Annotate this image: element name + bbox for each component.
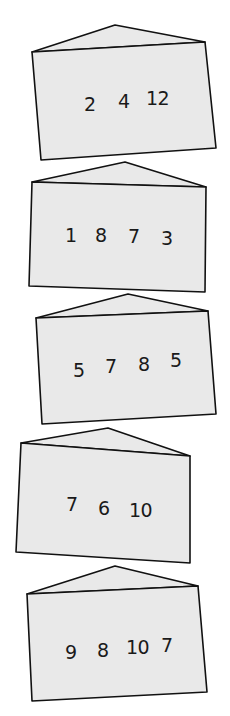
- envelope-number: 8: [97, 641, 109, 660]
- envelope-number: 7: [105, 357, 117, 376]
- envelope-number: 8: [95, 226, 107, 245]
- envelope-number: 7: [161, 636, 173, 655]
- envelope-5-shape: [27, 566, 207, 701]
- envelope-number: 10: [126, 638, 149, 657]
- envelope-number: 5: [73, 361, 85, 380]
- envelope-number: 9: [65, 643, 77, 662]
- envelope-number: 7: [66, 495, 78, 514]
- envelope-number: 10: [129, 501, 152, 520]
- envelope-number: 3: [161, 229, 173, 248]
- envelope-3-shape: [36, 294, 216, 424]
- envelope-number: 7: [128, 227, 140, 246]
- envelope-worksheet: 2 4 12 1 8 7 3 5 7 8 5 7 6 10 9 8 10 7: [0, 0, 230, 716]
- envelope-number: 4: [118, 92, 130, 111]
- envelope-body: [29, 182, 206, 292]
- envelope-body: [27, 586, 207, 701]
- envelope-number: 12: [146, 89, 169, 108]
- envelope-number: 6: [98, 499, 110, 518]
- envelope-number: 2: [84, 95, 96, 114]
- envelope-2-shape: [29, 162, 206, 292]
- envelope-number: 1: [65, 226, 77, 245]
- envelope-body: [36, 311, 216, 424]
- envelope-4-shape: [16, 428, 190, 563]
- envelope-number: 8: [138, 355, 150, 374]
- envelope-number: 5: [170, 351, 182, 370]
